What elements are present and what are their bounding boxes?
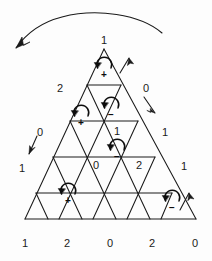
- edge-arrow-left-down: [29, 136, 37, 154]
- sweep-arc-arrow: [16, 13, 162, 48]
- cell-marker-row1-up: [94, 57, 112, 68]
- cell-sign-row4-up-left: +: [65, 196, 71, 206]
- edge-arrow-right-down: [144, 97, 155, 113]
- cell-marker-row2-down: [101, 97, 119, 108]
- edge-arrow-top-right-up: [120, 58, 134, 73]
- vertex-label-row3-left: 0: [37, 127, 43, 138]
- vertex-label-base-4: 2: [149, 238, 155, 249]
- vertex-label-row4-mid-right: 2: [136, 160, 142, 171]
- vertex-label-base-1: 1: [22, 238, 28, 249]
- vertex-label-apex: 1: [101, 35, 107, 46]
- vertex-label-row2-right: 0: [143, 83, 149, 94]
- vertex-label-base-3: 0: [107, 238, 113, 249]
- vertex-label-row4-right: 1: [181, 161, 187, 172]
- cell-sign-row2-up-left: +: [78, 118, 84, 128]
- cell-sign-row3-down: −: [114, 152, 120, 162]
- vertex-label-base-5: 0: [192, 238, 198, 249]
- vertex-label-row4-mid-left: 0: [93, 160, 99, 171]
- cell-sign-row2-down: −: [108, 110, 114, 120]
- triangular-lattice-figure: 1 2 0 0 1 1 1 0 2 1 1 2 0 2 0 + − + − + …: [0, 0, 212, 261]
- vertex-label-row3-mid: 1: [114, 126, 120, 137]
- vertex-label-base-2: 2: [64, 238, 70, 249]
- vertex-label-row2-left: 2: [57, 83, 63, 94]
- cell-sign-row1-up: +: [101, 70, 107, 80]
- lattice-grid: [25, 49, 196, 219]
- cell-marker-row3-down: [107, 139, 125, 150]
- cell-sign-row4-up-right: −: [169, 203, 175, 213]
- vertex-label-row3-right: 1: [162, 127, 168, 138]
- vertex-label-row4-left: 1: [19, 163, 25, 174]
- cell-marker-row2-up-left: [71, 105, 89, 116]
